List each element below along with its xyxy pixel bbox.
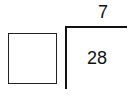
quotient: 7 — [98, 2, 108, 22]
divisor-answer-box[interactable] — [8, 33, 57, 84]
dividend: 28 — [87, 48, 107, 68]
division-bracket-horizontal — [65, 26, 127, 28]
division-bracket-vertical — [65, 27, 67, 89]
